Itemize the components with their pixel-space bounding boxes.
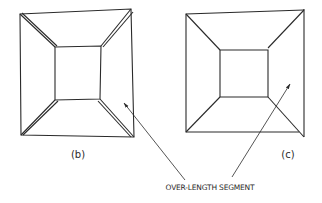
caption-c: (c) [281,149,294,160]
figure-b [20,9,134,137]
figure-c [186,9,304,137]
diagram-canvas: (b) (c) OVER-LENGTH SEGMENT [0,0,322,203]
diagonals-c [186,10,304,137]
arrow-to-b [124,103,185,180]
inner-square-b [55,46,101,100]
annotation-label: OVER-LENGTH SEGMENT [166,183,255,192]
inner-square-c [220,50,268,97]
diagonals-b [20,9,134,137]
arrow-to-c [232,84,290,177]
caption-b: (b) [71,149,85,160]
